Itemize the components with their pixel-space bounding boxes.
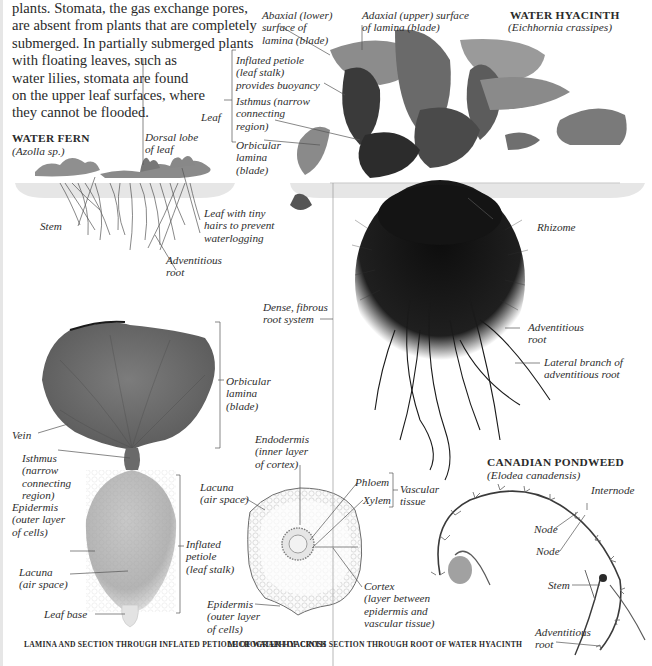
- label-isthmus-section: Isthmus (narrow connecting region): [22, 452, 71, 502]
- label-fern-adventitious-root: Adventitious root: [166, 254, 222, 279]
- hyacinth-root-mass: [352, 180, 550, 480]
- label-pondweed-adventitious-root: Adventitious root: [535, 626, 591, 651]
- label-fern-stem: Stem: [40, 220, 62, 232]
- label-node-1: Node: [534, 523, 558, 535]
- intro-line: water lilies, stomata are found: [12, 70, 254, 87]
- canadian-pondweed-scientific-name: (Elodea canadensis): [487, 469, 580, 482]
- label-vascular-tissue: Vascular tissue: [400, 483, 439, 508]
- label-orbicular-lamina: Orbicular lamina (blade): [226, 375, 271, 412]
- label-lacuna-micrograph: Lacuna (air space): [200, 481, 249, 506]
- aquatic-plants-diagram-page: plants. Stomata, the gas exchange pores,…: [0, 0, 652, 666]
- water-fern-scientific-name: (Azolla sp.): [12, 145, 65, 158]
- label-fibrous-root-system: Dense, fibrous root system: [263, 301, 328, 326]
- label-xylem: Xylem: [363, 494, 391, 506]
- label-endodermis: Endodermis (inner layer of cortex): [255, 433, 309, 470]
- intro-paragraph: plants. Stomata, the gas exchange pores,…: [12, 0, 254, 122]
- caption-root-micrograph: MICROGRAPH OF CROSS SECTION THROUGH ROOT…: [228, 639, 408, 650]
- label-epidermis-section: Epidermis (outer layer of cells): [12, 501, 65, 538]
- water-hyacinth-scientific-name: (Eichhornia crassipes): [508, 21, 612, 34]
- label-hyacinth-adventitious-root: Adventitious root: [528, 321, 584, 346]
- label-epidermis-micrograph: Epidermis (outer layer of cells): [207, 598, 260, 635]
- label-vein: Vein: [12, 429, 31, 441]
- intro-line: plants. Stomata, the gas exchange pores,: [12, 0, 254, 17]
- label-lacuna-section: Lacuna (air space): [19, 566, 68, 591]
- label-leaf-group: Leaf: [201, 111, 221, 123]
- label-isthmus-top: Isthmus (narrow connecting region): [236, 95, 310, 132]
- label-orbicular-lamina-top: Orbicular lamina (blade): [236, 139, 281, 176]
- label-pondweed-stem: Stem: [548, 579, 570, 591]
- label-phloem: Phloem: [355, 476, 389, 488]
- label-inflated-petiole-buoyancy: Inflated petiole (leaf stalk) provides b…: [236, 54, 320, 91]
- label-node-2: Node: [536, 545, 560, 557]
- water-surface: [15, 183, 645, 198]
- label-leaf-hairs: Leaf with tiny hairs to prevent waterlog…: [204, 207, 274, 244]
- water-fern-illustration: [35, 156, 211, 250]
- intro-line: with floating leaves, such as: [12, 52, 254, 69]
- root-cross-section-illustration: [248, 488, 362, 615]
- caption-lamina-section: LAMINA AND SECTION THROUGH INFLATED PETI…: [24, 639, 224, 650]
- label-inflated-petiole-section: Inflated petiole (leaf stalk): [186, 538, 234, 575]
- intro-line: are absent from plants that are complete…: [12, 17, 254, 34]
- intro-line: on the upper leaf surfaces, where: [12, 87, 254, 104]
- label-rhizome: Rhizome: [537, 221, 576, 233]
- label-adaxial-surface: Adaxial (upper) surface of lamina (blade…: [362, 9, 469, 34]
- label-abaxial-surface: Abaxial (lower) surface of lamina (blade…: [262, 9, 333, 46]
- label-dorsal-lobe: Dorsal lobe of leaf: [145, 131, 198, 156]
- label-lateral-branch: Lateral branch of adventitious root: [544, 356, 623, 381]
- intro-line: submerged. In partially submerged plants: [12, 35, 254, 52]
- label-leaf-base: Leaf base: [44, 608, 87, 620]
- label-internode: Internode: [591, 484, 635, 496]
- water-fern-title: WATER FERN: [12, 132, 90, 145]
- canadian-pondweed-title: CANADIAN PONDWEED: [487, 456, 624, 469]
- label-cortex: Cortex (layer between epidermis and vasc…: [364, 580, 435, 630]
